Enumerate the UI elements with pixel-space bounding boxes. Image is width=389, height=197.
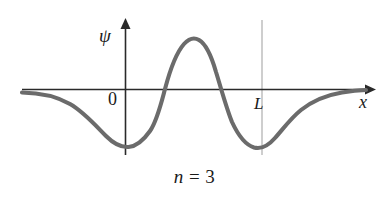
y-axis-arrowhead [121,18,131,29]
box-edge-label-L: L [254,95,263,112]
figure-caption: n = 3 [0,166,389,188]
caption-equals: = [189,166,200,187]
wavefunction-curve [22,38,366,148]
y-axis-label-psi: ψ [99,26,111,45]
caption-symbol-n: n [174,166,184,187]
caption-value: 3 [205,166,215,187]
wavefunction-figure: ψ 0 L x n = 3 [0,0,389,197]
x-axis-label-x: x [359,93,367,111]
origin-label-zero: 0 [108,90,117,108]
